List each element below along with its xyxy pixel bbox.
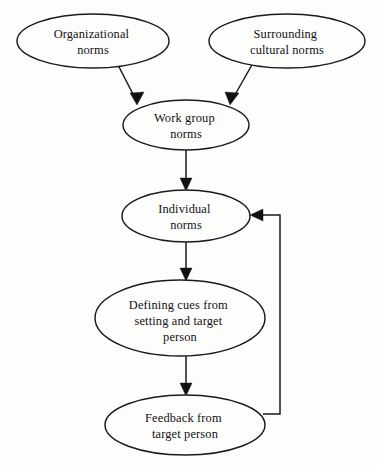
organizational-norms-ellipse[interactable]	[17, 14, 169, 68]
diagram-page: Organizational norms Surrounding cultura…	[0, 0, 377, 465]
flow-diagram: Organizational norms Surrounding cultura…	[0, 0, 377, 465]
node-surrounding-cultural-norms[interactable]: Surrounding cultural norms	[209, 14, 365, 68]
edge-surrounding-to-workgroup	[225, 63, 253, 105]
individual-norms-ellipse[interactable]	[122, 190, 250, 242]
edge-workgroup-to-individual	[180, 150, 192, 191]
node-work-group-norms[interactable]: Work group norms	[123, 100, 249, 150]
node-defining-cues[interactable]: Defining cues from setting and target pe…	[95, 280, 265, 356]
work-group-norms-ellipse[interactable]	[123, 100, 249, 150]
node-individual-norms[interactable]: Individual norms	[122, 190, 250, 242]
edge-organizational-to-workgroup	[117, 63, 144, 105]
feedback-from-target-person-ellipse[interactable]	[105, 395, 265, 455]
node-organizational-norms[interactable]: Organizational norms	[17, 14, 169, 68]
edge-definingcues-to-feedback	[180, 356, 192, 396]
surrounding-cultural-norms-ellipse[interactable]	[209, 14, 365, 68]
edge-individual-to-definingcues	[180, 242, 192, 281]
node-feedback-from-target-person[interactable]: Feedback from target person	[105, 395, 265, 455]
